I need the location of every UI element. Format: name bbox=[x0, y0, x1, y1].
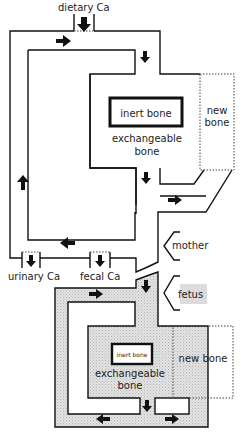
maternal-bone-label: bone bbox=[135, 146, 160, 157]
fetal-inert-bone-label: inert bone bbox=[117, 351, 148, 358]
mother-label: mother bbox=[172, 240, 209, 251]
maternal-exchangeable-label: exchangeable bbox=[112, 133, 182, 144]
fetal-bone-label: bone bbox=[118, 380, 143, 391]
arrow-down-icon bbox=[77, 17, 91, 32]
fetal-new-bone-label: new bone bbox=[179, 353, 228, 364]
maternal-new-bone-label: bone bbox=[205, 117, 230, 128]
arrow-left-icon bbox=[60, 237, 75, 249]
maternal-new-label: new bbox=[207, 105, 228, 116]
arrow-right-icon bbox=[56, 35, 71, 47]
urinary-ca-label: urinary Ca bbox=[8, 271, 60, 282]
arrow-down-icon bbox=[95, 255, 105, 267]
arrow-up-icon bbox=[17, 175, 29, 190]
fecal-ca-label: fecal Ca bbox=[80, 271, 120, 282]
fetus-label: fetus bbox=[178, 289, 203, 300]
arrow-down-icon bbox=[26, 255, 36, 267]
excretion-outputs bbox=[22, 252, 110, 268]
arrow-down-icon bbox=[140, 51, 150, 63]
maternal-inert-bone-label: inert bone bbox=[120, 108, 171, 119]
fetal-exchangeable-label: exchangeable bbox=[95, 368, 165, 379]
arrow-down-icon bbox=[141, 172, 151, 184]
dietary-ca-label: dietary Ca bbox=[58, 2, 110, 13]
calcium-flow-diagram: dietary Ca inert bone exchangeable bone … bbox=[0, 0, 246, 434]
